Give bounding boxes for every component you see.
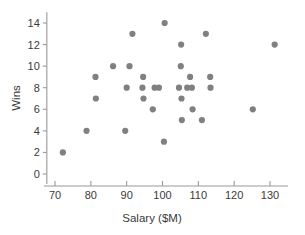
data-point xyxy=(140,95,146,101)
data-point xyxy=(189,85,195,91)
data-point xyxy=(126,63,132,69)
y-tick-label: 12 xyxy=(28,39,40,51)
data-point xyxy=(250,106,256,112)
data-point xyxy=(110,63,116,69)
data-point xyxy=(139,85,145,91)
x-tick-label: 120 xyxy=(225,189,243,201)
data-point xyxy=(203,31,209,37)
data-point xyxy=(187,74,193,80)
x-tick-label: 110 xyxy=(190,189,208,201)
data-point xyxy=(161,139,167,145)
x-axis-tick-labels: 708090100110120130 xyxy=(49,189,279,201)
y-tick-label: 6 xyxy=(34,103,40,115)
y-axis-tick-labels: 02468101214 xyxy=(28,17,40,180)
x-tick-label: 130 xyxy=(261,189,279,201)
data-point xyxy=(178,63,184,69)
data-point xyxy=(178,41,184,47)
data-point xyxy=(162,20,168,26)
x-axis-ticks xyxy=(55,181,270,186)
data-point xyxy=(156,85,162,91)
scatter-plot-figure: 02468101214 708090100110120130 Salary ($… xyxy=(0,0,305,235)
data-point xyxy=(207,74,213,80)
data-point xyxy=(207,85,213,91)
y-tick-label: 8 xyxy=(34,82,40,94)
x-axis-title: Salary ($M) xyxy=(122,212,182,224)
data-points-layer xyxy=(60,20,278,156)
x-axis: 708090100110120130 xyxy=(44,181,288,201)
y-tick-label: 4 xyxy=(34,125,40,137)
x-tick-label: 70 xyxy=(49,189,61,201)
data-point xyxy=(83,128,89,134)
data-point xyxy=(129,31,135,37)
x-tick-label: 100 xyxy=(153,189,171,201)
data-point xyxy=(179,117,185,123)
y-axis-title: Wins xyxy=(10,85,22,111)
plot-canvas: 02468101214 708090100110120130 Salary ($… xyxy=(0,0,305,235)
data-point xyxy=(60,149,66,155)
data-point xyxy=(93,95,99,101)
y-tick-label: 2 xyxy=(34,146,40,158)
x-tick-label: 90 xyxy=(121,189,133,201)
data-point xyxy=(140,74,146,80)
data-point xyxy=(124,85,130,91)
x-tick-label: 80 xyxy=(85,189,97,201)
data-point xyxy=(122,128,128,134)
y-tick-label: 14 xyxy=(28,17,40,29)
y-tick-label: 10 xyxy=(28,60,40,72)
data-point xyxy=(190,106,196,112)
data-point xyxy=(150,106,156,112)
data-point xyxy=(178,95,184,101)
data-point xyxy=(176,85,182,91)
data-point xyxy=(92,74,98,80)
y-tick-label: 0 xyxy=(34,168,40,180)
y-axis: 02468101214 xyxy=(28,12,47,184)
data-point xyxy=(272,41,278,47)
y-axis-ticks xyxy=(43,23,47,174)
data-point xyxy=(199,117,205,123)
